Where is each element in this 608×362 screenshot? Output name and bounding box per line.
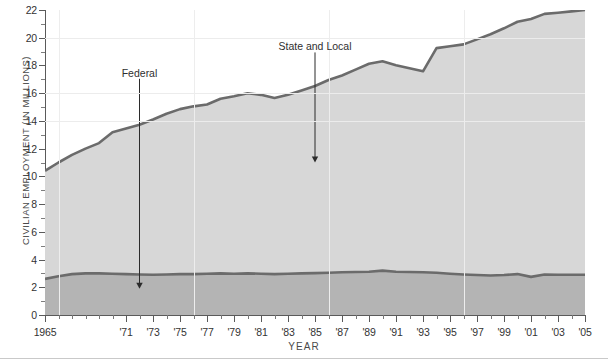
annotation-label-federal: Federal: [122, 67, 158, 79]
x-axis-minor-tick: [140, 315, 141, 319]
x-axis-minor-tick: [464, 315, 465, 319]
x-axis-minor-tick: [72, 315, 73, 319]
x-axis-tick-label: '73: [146, 326, 159, 338]
x-axis-tick: [342, 315, 343, 322]
annotation-label-state-and-local: State and Local: [279, 40, 352, 52]
x-axis-minor-tick: [113, 315, 114, 319]
y-axis-tick-label: 6: [9, 226, 37, 238]
x-axis-tick: [234, 315, 235, 322]
x-axis-tick: [450, 315, 451, 322]
x-axis-tick-label: '87: [335, 326, 348, 338]
x-axis-minor-tick: [99, 315, 100, 319]
horizontal-gridline: [45, 93, 585, 94]
x-axis-tick-label: '85: [308, 326, 321, 338]
x-axis-tick: [531, 315, 532, 322]
x-axis-tick-label: 1965: [34, 326, 57, 338]
x-axis-tick-label: '05: [578, 326, 591, 338]
x-axis-tick-label: '79: [227, 326, 240, 338]
y-axis-tick-label: 8: [9, 198, 37, 210]
y-axis-tick: [39, 204, 45, 205]
x-axis-tick-label: '95: [443, 326, 456, 338]
y-axis-tick: [39, 287, 45, 288]
x-axis-tick: [396, 315, 397, 322]
vertical-gridline: [464, 10, 465, 315]
x-axis-tick-label: '77: [200, 326, 213, 338]
x-axis-minor-tick: [545, 315, 546, 319]
x-axis-minor-tick: [518, 315, 519, 319]
y-axis-tick: [39, 65, 45, 66]
x-axis-tick: [558, 315, 559, 322]
x-axis-minor-tick: [572, 315, 573, 319]
x-axis-minor-tick: [221, 315, 222, 319]
y-axis-minor-tick: [41, 79, 45, 80]
x-axis-tick-label: '75: [173, 326, 186, 338]
x-axis-tick-label: '91: [389, 326, 402, 338]
x-axis-tick-label: '83: [281, 326, 294, 338]
y-axis-tick: [39, 38, 45, 39]
x-axis-minor-tick: [410, 315, 411, 319]
plot-area: 02468101214161820221965'71'73'75'77'79'8…: [45, 10, 585, 315]
federal-area: [45, 271, 585, 315]
x-axis-tick-label: '93: [416, 326, 429, 338]
x-axis-minor-tick: [383, 315, 384, 319]
y-axis-tick-label: 4: [9, 254, 37, 266]
x-axis-minor-tick: [356, 315, 357, 319]
x-axis-minor-tick: [491, 315, 492, 319]
x-axis-minor-tick: [248, 315, 249, 319]
y-axis-minor-tick: [41, 273, 45, 274]
x-axis-tick: [477, 315, 478, 322]
x-axis-tick: [180, 315, 181, 322]
x-axis-tick: [45, 315, 46, 322]
x-axis-title: YEAR: [0, 341, 608, 352]
footer-rule: [0, 358, 608, 359]
x-axis-minor-tick: [194, 315, 195, 319]
vertical-gridline: [329, 10, 330, 315]
y-axis-tick-label: 22: [9, 4, 37, 16]
y-axis-tick: [39, 93, 45, 94]
x-axis-tick: [504, 315, 505, 322]
y-axis-tick: [39, 176, 45, 177]
x-axis-minor-tick: [86, 315, 87, 319]
y-axis-tick: [39, 232, 45, 233]
x-axis-tick: [288, 315, 289, 322]
x-axis-tick-label: '97: [470, 326, 483, 338]
y-axis-minor-tick: [41, 218, 45, 219]
x-axis-minor-tick: [302, 315, 303, 319]
y-axis-tick-label: 20: [9, 32, 37, 44]
y-axis-minor-tick: [41, 107, 45, 108]
y-axis-tick: [39, 260, 45, 261]
y-axis-tick-label: 0: [9, 309, 37, 321]
y-axis-minor-tick: [41, 24, 45, 25]
y-axis-tick-label: 16: [9, 87, 37, 99]
x-axis-tick-label: '99: [497, 326, 510, 338]
x-axis-minor-tick: [437, 315, 438, 319]
horizontal-gridline: [45, 38, 585, 39]
chart-root: CIVILIAN EMPLOYMENT (IN MILLIONS) YEAR 0…: [0, 0, 608, 362]
y-axis-tick-label: 10: [9, 170, 37, 182]
x-axis-tick: [126, 315, 127, 322]
x-axis-tick: [369, 315, 370, 322]
y-axis-minor-tick: [41, 52, 45, 53]
x-axis-tick: [423, 315, 424, 322]
x-axis-tick: [585, 315, 586, 322]
x-axis-minor-tick: [59, 315, 60, 319]
x-axis-minor-tick: [167, 315, 168, 319]
x-axis-tick: [153, 315, 154, 322]
vertical-gridline: [194, 10, 195, 315]
y-axis-tick-label: 2: [9, 281, 37, 293]
x-axis-minor-tick: [329, 315, 330, 319]
y-axis-minor-tick: [41, 135, 45, 136]
x-axis-tick-label: '01: [524, 326, 537, 338]
y-axis-tick-label: 14: [9, 115, 37, 127]
y-axis-minor-tick: [41, 246, 45, 247]
horizontal-gridline: [45, 121, 585, 122]
y-axis-minor-tick: [41, 163, 45, 164]
x-axis-tick-label: '03: [551, 326, 564, 338]
vertical-gridline: [59, 10, 60, 315]
y-axis-tick-label: 12: [9, 143, 37, 155]
stacked-area-series: [45, 10, 586, 316]
y-axis-tick-label: 18: [9, 59, 37, 71]
x-axis-tick: [261, 315, 262, 322]
x-axis-tick: [207, 315, 208, 322]
x-axis-minor-tick: [275, 315, 276, 319]
